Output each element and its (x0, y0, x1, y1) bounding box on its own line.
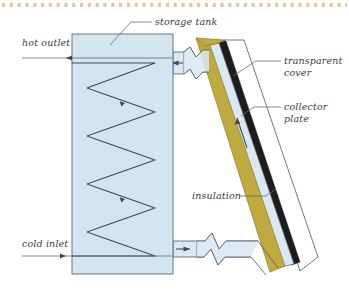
diagram-canvas: storage tank hot outlet cold inlet trans… (0, 0, 349, 293)
cold-pipe-break-fill (197, 233, 258, 265)
label-collector-plate-line2: plate (284, 113, 309, 124)
label-storage-tank: storage tank (155, 16, 218, 27)
hot-outlet-leader-arrow (66, 56, 72, 61)
solar-collector-diagram: storage tank hot outlet cold inlet trans… (0, 0, 349, 293)
storage-tank (72, 34, 173, 274)
hot-pipe-break-fill (184, 47, 209, 79)
label-transparent-cover-line2: cover (284, 67, 313, 78)
storage-tank-body (72, 34, 173, 274)
label-cold-inlet: cold inlet (22, 238, 68, 249)
cold-inlet-leader-arrow (60, 254, 66, 259)
label-hot-outlet: hot outlet (22, 37, 70, 48)
label-insulation: insulation (192, 190, 241, 201)
label-collector-plate-line1: collector (284, 101, 329, 112)
label-transparent-cover-line1: transparent (284, 55, 343, 66)
hot-outlet-pipe (172, 47, 210, 79)
